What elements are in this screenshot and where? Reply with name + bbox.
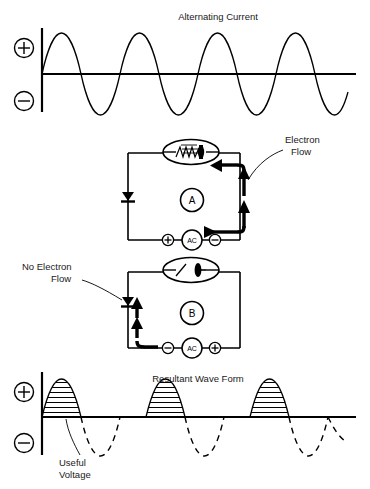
no-electron-flow-label-line1: No Electron <box>22 261 72 272</box>
circuit-label-a: A <box>181 189 204 212</box>
electron-flow-label-line2: Flow <box>291 146 311 157</box>
useful-voltage-label-line1: Useful <box>59 457 86 468</box>
ac-source-a-label: AC <box>187 237 197 244</box>
circuit-b-letter: B <box>189 308 196 319</box>
lamp-icon-unlit <box>163 258 219 283</box>
useful-voltage-label-line2: Voltage <box>59 469 91 480</box>
ac-source-a-minus-terminal <box>209 234 220 245</box>
ac-source-b-label: AC <box>187 345 197 352</box>
circuit-a-letter: A <box>189 195 196 206</box>
circuit-label-b: B <box>181 302 204 325</box>
chart-title-alternating-current: Alternating Current <box>178 11 258 22</box>
lamp-icon-lit <box>163 140 219 165</box>
electron-flow-label-line1: Electron <box>285 134 320 145</box>
ac-source-b-minus-terminal <box>162 342 173 353</box>
ac-source-a-plus-terminal <box>162 234 173 245</box>
no-electron-flow-label-line2: Flow <box>51 273 71 284</box>
rectifier-diagram: Alternating Current <box>0 0 370 489</box>
ac-source-b-plus-terminal <box>209 342 220 353</box>
